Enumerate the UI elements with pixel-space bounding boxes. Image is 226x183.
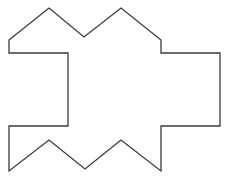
diagram-canvas — [0, 0, 226, 183]
polygon-shape-outline — [9, 8, 220, 171]
